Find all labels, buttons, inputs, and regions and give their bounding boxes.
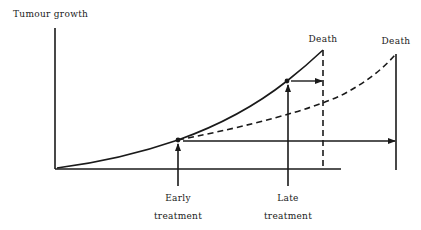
untreated-growth-curve (57, 50, 323, 168)
late-treatment-point (285, 79, 290, 84)
treated-death-label: Death (382, 37, 411, 46)
early-treatment-label-line2: treatment (154, 212, 202, 221)
y-axis-label: Tumour growth (13, 10, 88, 19)
tumour-growth-diagram (0, 0, 421, 230)
early-treatment-point (176, 138, 181, 143)
untreated-death-label: Death (309, 35, 338, 44)
late-treatment-label-line1: Late (277, 194, 299, 203)
early-treatment-label-line1: Early (165, 194, 191, 203)
late-treatment-label-line2: treatment (264, 212, 312, 221)
